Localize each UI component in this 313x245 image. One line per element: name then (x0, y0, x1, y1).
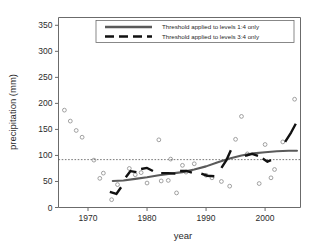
legend-label: Threshold applied to levels 1:4 only (162, 23, 260, 30)
trend-path-dashed-segment (161, 173, 175, 174)
chart-canvas: 050100150200250300350 1970198019902000 T… (0, 0, 313, 245)
y-axis-title: precipitation (mm) (7, 74, 18, 150)
y-tick-label: 350 (38, 20, 52, 30)
y-tick-label: 50 (43, 176, 53, 186)
chart-legend: Threshold applied to levels 1:4 onlyThre… (96, 21, 294, 43)
legend-label: Threshold applied to levels 3:4 only (162, 33, 260, 40)
x-tick-label: 1980 (138, 213, 157, 223)
x-tick-label: 1990 (197, 213, 216, 223)
y-tick-label: 250 (38, 72, 52, 82)
x-axis-title: year (174, 230, 192, 241)
y-tick-label: 200 (38, 98, 52, 108)
y-tick-label: 100 (38, 150, 52, 160)
y-tick-label: 0 (48, 203, 53, 213)
x-tick-label: 1970 (79, 213, 98, 223)
precipitation-trend-chart: 050100150200250300350 1970198019902000 T… (0, 0, 313, 245)
y-tick-label: 300 (38, 46, 52, 56)
y-tick-label: 150 (38, 124, 52, 134)
x-tick-label: 2000 (256, 213, 275, 223)
